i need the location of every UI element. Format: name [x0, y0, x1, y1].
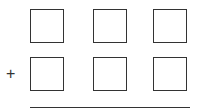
digit-box-row1-tens[interactable] — [93, 9, 127, 43]
digit-box-row2-ones[interactable] — [153, 57, 187, 91]
sum-line — [30, 107, 190, 108]
plus-sign: + — [6, 66, 15, 82]
digit-box-row1-hundreds[interactable] — [30, 9, 64, 43]
digit-box-row2-hundreds[interactable] — [30, 57, 64, 91]
digit-box-row2-tens[interactable] — [93, 57, 127, 91]
digit-box-row1-ones[interactable] — [153, 9, 187, 43]
